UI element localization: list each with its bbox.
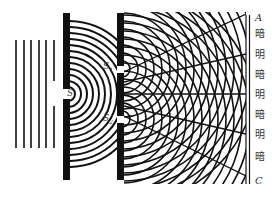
screen-label-a: A (255, 13, 262, 23)
fringe-bright-1: 明 (255, 50, 265, 60)
fringe-dark-1: 暗 (255, 29, 265, 39)
screen-label-c: C (255, 176, 263, 186)
fringe-dark-2: 暗 (255, 70, 265, 80)
fringe-bright-2: 明 (255, 90, 265, 100)
fringe-dark-3: 暗 (255, 110, 265, 120)
fringe-bright-3: 明 (255, 130, 265, 140)
plane-waves (16, 40, 54, 148)
screen (246, 15, 250, 184)
label-s1: S1 (103, 62, 113, 73)
double-slit-diagram (0, 0, 272, 198)
label-s2: S2 (103, 114, 113, 125)
fringe-dark-4: 暗 (255, 152, 265, 162)
label-s: S (67, 89, 73, 98)
double-slit-barrier (117, 13, 124, 180)
